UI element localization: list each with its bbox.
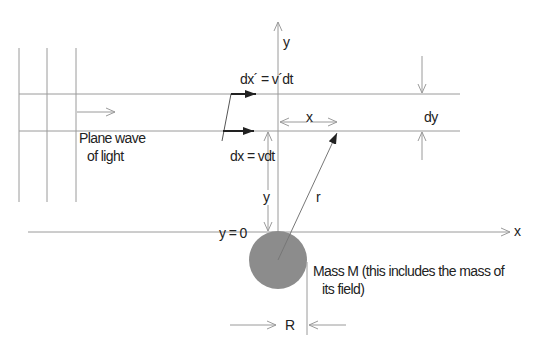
y-zero-label: y = 0 (219, 226, 247, 240)
tilted-wavefront (222, 94, 231, 141)
r-label: r (316, 190, 320, 204)
dx-prime-label: dx´ = v´dt (240, 72, 293, 86)
dx-label: dx = vdt (230, 149, 275, 163)
y-distance-label: y (263, 190, 269, 204)
mass-label-line1: Mass M (this includes the mass of (313, 264, 504, 278)
dy-label: dy (424, 110, 438, 124)
x-axis-label: x (514, 224, 520, 238)
y-axis-label: y (283, 35, 289, 49)
wavefront-lines (19, 48, 76, 202)
plane-wave-label-line1: Plane wave (79, 131, 145, 145)
R-label: R (285, 318, 295, 332)
r-vector-arrow-icon (278, 133, 337, 260)
light-bending-diagram (0, 0, 539, 356)
mass-label-line2: its field) (322, 282, 364, 296)
x-distance-label: x (306, 110, 312, 124)
plane-wave-label-line2: of light (87, 149, 123, 163)
